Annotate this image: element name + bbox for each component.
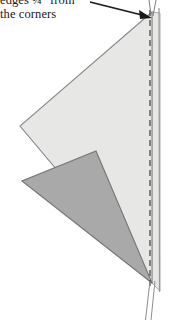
diagram-canvas: edges ¼" from the corners: [0, 0, 185, 332]
annotation-line-2: the corners: [0, 8, 105, 22]
thread-tail-left-line: [146, 281, 151, 320]
solid-edge-line: [159, 8, 160, 292]
annotation-caption: edges ¼" from the corners: [0, 0, 105, 21]
fabric-corner-illustration: [0, 0, 185, 332]
thread-tail-right-line: [151, 281, 155, 320]
